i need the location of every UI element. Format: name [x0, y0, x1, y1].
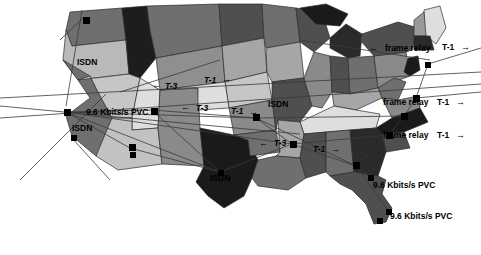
label-t1-se: T-1	[437, 131, 449, 140]
site-sanfrancisco[interactable]	[64, 109, 71, 116]
site-denver[interactable]	[151, 108, 158, 115]
site-boston[interactable]	[425, 62, 431, 68]
label-t3-south: T-3	[274, 139, 286, 148]
label-framerelay-se: frame relay	[383, 131, 428, 140]
label-isdn-texas: ISDN	[210, 174, 230, 183]
state-la	[252, 156, 306, 190]
arrow-fr-ne-left: ←	[369, 44, 378, 53]
arrow-t3-mid-left: ←	[181, 103, 190, 112]
state-ia	[266, 42, 304, 82]
label-t1-north: T-1	[204, 76, 216, 85]
arrow-t1-ne-right: →	[461, 43, 470, 52]
label-pvc-southeast: 9.6 Kbits/s PVC	[373, 181, 435, 190]
arrow-t1-south-right: →	[331, 145, 340, 154]
label-t1-mid: T-1	[231, 107, 243, 116]
arrow-t1-north-right: →	[222, 75, 231, 84]
label-t3-north: T-3	[165, 82, 177, 91]
state-oh	[348, 56, 378, 94]
arrow-t3-north-left: ←	[152, 81, 161, 90]
label-framerelay-ne: frame relay	[385, 44, 430, 53]
state-mn	[262, 4, 300, 48]
label-pvc-florida: 9.6 Kbits/s PVC	[390, 212, 452, 221]
label-isdn-midwest: ISDN	[268, 100, 288, 109]
site-seattle[interactable]	[83, 17, 90, 24]
site-tampa[interactable]	[377, 218, 383, 224]
state-nm	[158, 88, 204, 166]
arrow-t1-mid-right: →	[249, 108, 258, 117]
label-pvc-west: 9.6 Kbits/s PVC	[86, 108, 148, 117]
state-ms	[300, 132, 326, 178]
label-t1-south: T-1	[313, 145, 325, 154]
label-t1-midatlantic: T-1	[437, 98, 449, 107]
site-memphis[interactable]	[290, 141, 297, 148]
arrow-t3-south-left: ←	[259, 139, 268, 148]
state-nh-vt	[414, 12, 426, 36]
site-atlanta[interactable]	[353, 162, 360, 169]
arrow-t1-mid-atl: →	[456, 98, 465, 107]
label-t3-mid: T-3	[196, 104, 208, 113]
state-wa	[66, 8, 126, 46]
site-losangeles[interactable]	[71, 135, 77, 141]
label-isdn-seattle: ISDN	[77, 58, 97, 67]
site-phoenix[interactable]	[130, 152, 136, 158]
site-washington[interactable]	[401, 113, 408, 120]
label-t1-ne: T-1	[442, 43, 454, 52]
arrow-t1-se-right: →	[456, 131, 465, 140]
label-framerelay-mid: frame relay	[383, 98, 428, 107]
state-mi-lp	[330, 24, 362, 58]
state-in	[330, 56, 350, 94]
network-topology-map: ←→←→←→←→→→ ISDNISDN9.6 Kbits/s PVCT-3T-1…	[0, 0, 481, 255]
label-isdn-sanfran: ISDN	[72, 124, 92, 133]
site-saltlake[interactable]	[129, 144, 136, 151]
